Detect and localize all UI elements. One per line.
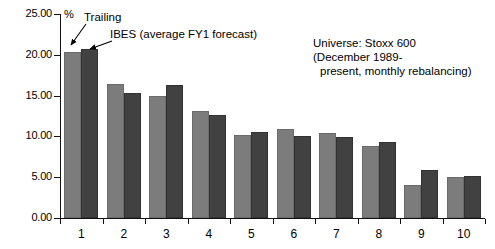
universe-note-line-3: present, monthly rebalancing) — [313, 64, 472, 78]
bar-trailing-7 — [319, 133, 336, 218]
y-axis-tick-label: 10.00 — [0, 130, 52, 141]
x-axis-tick-label: 1 — [78, 228, 85, 240]
bar-trailing-6 — [277, 129, 294, 218]
x-axis-tick — [145, 219, 146, 224]
x-axis-tick — [273, 219, 274, 224]
bar-ibes-7 — [336, 137, 353, 218]
y-axis-tick — [54, 177, 60, 178]
bar-trailing-5 — [234, 135, 251, 218]
x-axis-tick — [103, 219, 104, 224]
bar-chart: 0.005.0010.0015.0020.0025.00 % 123456789… — [0, 0, 495, 249]
bar-trailing-3 — [149, 96, 166, 218]
series-label-trailing: Trailing — [84, 10, 121, 24]
bar-trailing-2 — [107, 84, 124, 218]
bar-trailing-1 — [64, 52, 81, 218]
x-axis-tick-label: 7 — [333, 228, 340, 240]
bar-ibes-8 — [379, 142, 396, 218]
x-axis-tick — [400, 219, 401, 224]
x-axis-tick-label: 6 — [290, 228, 297, 240]
y-axis-tick — [54, 55, 60, 56]
y-axis-tick-label: 0.00 — [0, 212, 52, 223]
x-axis-tick-label: 8 — [375, 228, 382, 240]
x-axis-tick-label: 3 — [163, 228, 170, 240]
y-axis-tick-label: 5.00 — [0, 171, 52, 182]
bar-ibes-10 — [464, 176, 481, 218]
y-axis-tick-label: 15.00 — [0, 90, 52, 101]
y-axis-tick-label: 20.00 — [0, 49, 52, 60]
x-axis-tick — [485, 219, 486, 224]
x-axis-tick — [230, 219, 231, 224]
y-axis-tick — [54, 136, 60, 137]
bar-ibes-9 — [421, 170, 438, 218]
bar-trailing-9 — [404, 185, 421, 218]
bar-ibes-6 — [294, 136, 311, 218]
y-axis-tick-label: 25.00 — [0, 8, 52, 19]
bar-ibes-3 — [166, 85, 183, 218]
universe-note: Universe: Stoxx 600 (December 1989- pres… — [313, 36, 472, 78]
x-axis-tick-label: 4 — [205, 228, 212, 240]
bar-ibes-5 — [251, 132, 268, 218]
bar-ibes-2 — [124, 93, 141, 218]
x-axis-tick — [60, 219, 61, 224]
x-axis-tick-label: 10 — [457, 228, 470, 240]
x-axis-tick — [443, 219, 444, 224]
x-axis-tick — [188, 219, 189, 224]
bar-trailing-10 — [447, 177, 464, 218]
x-axis-tick-label: 2 — [120, 228, 127, 240]
bar-trailing-8 — [362, 146, 379, 218]
x-axis-tick — [358, 219, 359, 224]
bar-ibes-1 — [81, 49, 98, 218]
series-label-ibes: IBES (average FY1 forecast) — [110, 27, 257, 41]
x-axis-tick-label: 9 — [418, 228, 425, 240]
bar-ibes-4 — [209, 115, 226, 218]
x-axis-tick-label: 5 — [248, 228, 255, 240]
universe-note-line-2: (December 1989- — [313, 50, 472, 64]
y-axis-tick — [54, 96, 60, 97]
y-axis-tick — [54, 14, 60, 15]
bar-trailing-4 — [192, 111, 209, 218]
x-axis-tick — [315, 219, 316, 224]
universe-note-line-1: Universe: Stoxx 600 — [313, 36, 472, 50]
